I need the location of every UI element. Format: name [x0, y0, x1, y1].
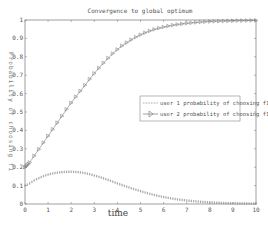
data-point: [172, 197, 173, 199]
data-point: [66, 171, 67, 173]
data-point: [214, 201, 215, 203]
data-point: [54, 172, 55, 174]
x-tick-label: 6: [162, 206, 166, 213]
data-point: [175, 198, 176, 200]
y-axis-label: Probability of choosing f1: [7, 52, 15, 172]
data-point: [45, 174, 46, 176]
data-point: [237, 202, 238, 204]
data-point: [64, 171, 65, 173]
data-point: [114, 181, 115, 183]
chart: Convergence to global optimum 0123456789…: [0, 0, 268, 228]
data-point: [117, 182, 118, 184]
x-tick-label: 0: [23, 206, 27, 213]
data-point: [161, 195, 162, 197]
legend-label-user1: user 1 probability of choosing f1: [160, 100, 268, 107]
data-point: [205, 201, 206, 203]
data-point: [209, 201, 210, 203]
data-point: [177, 198, 178, 200]
data-point: [126, 185, 127, 187]
data-point: [225, 202, 226, 204]
data-point: [50, 173, 51, 175]
legend: user 1 probability of choosing f1 user 2…: [140, 96, 268, 121]
x-tick-label: 5: [139, 206, 143, 213]
data-point: [121, 184, 122, 186]
data-point: [248, 202, 249, 204]
data-point: [255, 202, 256, 204]
y-tick-label: 0.9: [12, 34, 23, 41]
data-point: [193, 200, 194, 202]
data-point: [253, 202, 254, 204]
data-point: [82, 172, 83, 174]
data-point: [110, 180, 111, 182]
data-point: [230, 202, 231, 204]
y-tick-label: 1: [19, 16, 23, 23]
data-point: [232, 202, 233, 204]
data-point: [48, 173, 49, 175]
data-point: [94, 174, 95, 176]
data-point: [186, 199, 187, 201]
data-point: [84, 172, 85, 174]
data-point: [242, 202, 243, 204]
data-point: [163, 196, 164, 198]
data-point: [96, 175, 97, 177]
data-point: [216, 201, 217, 203]
data-point: [112, 180, 113, 182]
data-point: [131, 187, 132, 189]
data-point: [202, 201, 203, 203]
data-point: [61, 171, 62, 173]
data-point: [43, 175, 44, 177]
data-point: [246, 202, 247, 204]
data-point: [38, 177, 39, 179]
x-tick-label: 7: [185, 206, 189, 213]
x-axis-label: time: [108, 208, 128, 218]
data-point: [223, 202, 224, 204]
data-point: [105, 178, 106, 180]
y-tick-label: 0: [19, 200, 23, 207]
data-point: [151, 193, 152, 195]
data-point: [221, 202, 222, 204]
chart-title: Convergence to global optimum: [88, 7, 193, 15]
data-point: [91, 174, 92, 176]
data-point: [147, 192, 148, 194]
data-point: [228, 202, 229, 204]
data-point: [191, 200, 192, 202]
data-point: [251, 202, 252, 204]
x-tick-label: 10: [252, 206, 260, 213]
data-point: [235, 202, 236, 204]
x-tick-label: 3: [92, 206, 96, 213]
data-point: [71, 171, 72, 173]
data-point: [119, 183, 120, 185]
x-tick-label: 8: [208, 206, 212, 213]
data-point: [179, 198, 180, 200]
data-point: [145, 191, 146, 193]
data-point: [184, 199, 185, 201]
data-point: [29, 182, 30, 184]
data-point: [73, 171, 74, 173]
data-point: [124, 185, 125, 187]
data-point: [128, 186, 129, 188]
data-point: [68, 171, 69, 173]
series-line: [25, 20, 256, 167]
data-point: [200, 201, 201, 203]
data-point: [87, 172, 88, 174]
data-point: [212, 201, 213, 203]
x-tick-label: 1: [46, 206, 50, 213]
data-point: [98, 176, 99, 178]
data-point: [31, 181, 32, 183]
data-point: [207, 201, 208, 203]
y-tick-label: 0.1: [12, 182, 23, 189]
data-point: [135, 188, 136, 190]
x-tick-label: 9: [231, 206, 235, 213]
data-point: [52, 172, 53, 174]
legend-label-user2: user 2 probability of choosing f1: [160, 111, 268, 118]
data-point: [158, 195, 159, 197]
data-point: [140, 190, 141, 192]
data-point: [78, 171, 79, 173]
data-point: [24, 184, 25, 186]
data-point: [41, 176, 42, 178]
data-point: [170, 197, 171, 199]
x-tick-label: 2: [69, 206, 73, 213]
data-point: [244, 202, 245, 204]
data-point: [218, 202, 219, 204]
data-point: [59, 171, 60, 173]
